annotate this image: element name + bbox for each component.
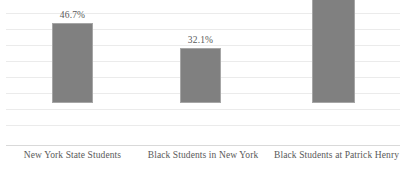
bar-group-black-students-at-patrick-henry: 67.0% bbox=[312, 0, 355, 103]
bar-value-label-1: 46.7% bbox=[60, 10, 85, 21]
bar-group-new-york-state-students: 46.7% bbox=[52, 0, 93, 103]
category-axis-line bbox=[6, 145, 400, 146]
category-label-black-students-at-patrick-henry: Black Students at Patrick Henry bbox=[271, 149, 402, 162]
category-label-new-york-state-students: New York State Students bbox=[4, 149, 141, 162]
bar-group-black-students-in-new-york: 32.1% bbox=[180, 0, 221, 103]
gridline bbox=[6, 125, 400, 126]
bar-rect-black-students-at-patrick-henry[interactable] bbox=[312, 0, 355, 103]
plot-area: 46.7% 32.1% 67.0% bbox=[0, 0, 406, 146]
bar-rect-black-students-in-new-york[interactable] bbox=[180, 48, 221, 103]
bar-column: 46.7% bbox=[52, 0, 93, 103]
bar-column: 67.0% bbox=[312, 0, 355, 103]
bar-rect-new-york-state-students[interactable] bbox=[52, 23, 93, 103]
bar-column: 32.1% bbox=[180, 0, 221, 103]
category-axis-labels: New York State Students Black Students i… bbox=[0, 149, 406, 188]
gridline bbox=[6, 109, 400, 110]
bar-value-label-2: 32.1% bbox=[188, 35, 213, 46]
category-label-black-students-in-new-york: Black Students in New York bbox=[133, 149, 273, 162]
bar-chart-figure: 46.7% 32.1% 67.0% New York State Student… bbox=[0, 0, 406, 188]
